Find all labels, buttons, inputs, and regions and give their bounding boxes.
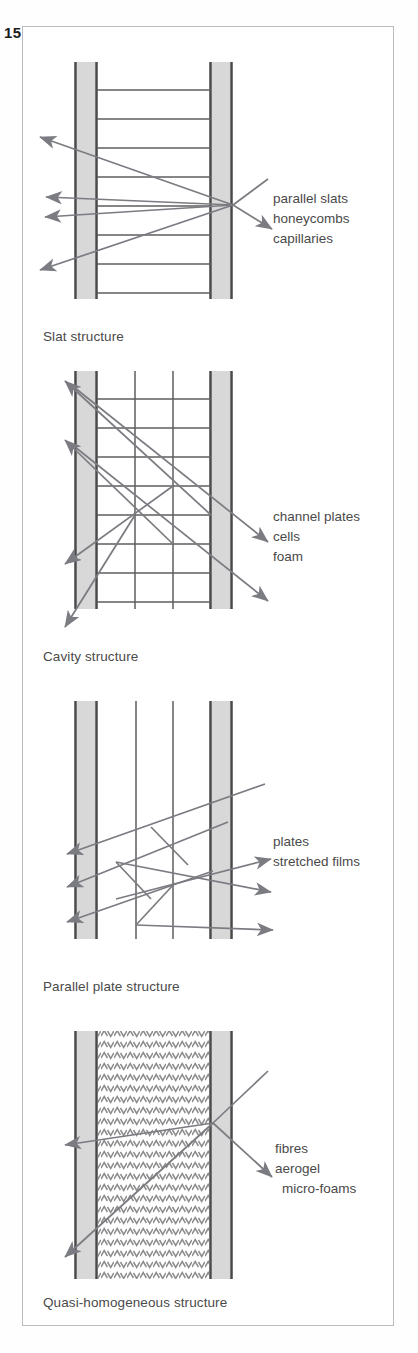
right-wall bbox=[209, 701, 233, 939]
callout-line: plates bbox=[273, 832, 360, 852]
page-number: 15 bbox=[4, 24, 21, 41]
caption-cavity-structure: Cavity structure bbox=[43, 649, 138, 664]
left-wall bbox=[74, 371, 98, 609]
left-wall bbox=[74, 1031, 98, 1279]
caption-quasi-homogeneous-structure: Quasi-homogeneous structure bbox=[43, 1295, 227, 1310]
internal-plates bbox=[136, 701, 173, 939]
callout-line: cells bbox=[273, 527, 360, 547]
callout-line: foam bbox=[273, 547, 360, 567]
left-wall bbox=[74, 62, 98, 299]
callout-line: micro-foams bbox=[275, 1179, 356, 1199]
callout-cavity-structure: channel plates cells foam bbox=[273, 507, 360, 567]
panel-cavity-structure: channel plates cells foam Cavity structu… bbox=[23, 357, 395, 687]
right-wall bbox=[209, 371, 233, 609]
callout-parallel-plate-structure: plates stretched films bbox=[273, 832, 360, 872]
panel-slat-structure: parallel slats honeycombs capillaries Sl… bbox=[23, 27, 395, 357]
callout-line: aerogel bbox=[275, 1159, 356, 1179]
ray-source-segment bbox=[233, 179, 268, 205]
callout-line: capillaries bbox=[273, 229, 350, 249]
left-wall bbox=[74, 701, 98, 939]
right-wall bbox=[209, 62, 233, 299]
right-wall bbox=[209, 1031, 233, 1279]
caption-slat-structure: Slat structure bbox=[43, 329, 124, 344]
callout-line: honeycombs bbox=[273, 209, 350, 229]
callout-slat-structure: parallel slats honeycombs capillaries bbox=[273, 189, 350, 249]
page: 15 bbox=[0, 0, 418, 1353]
callout-line: stretched films bbox=[273, 852, 360, 872]
callout-line: fibres bbox=[275, 1139, 356, 1159]
panel-parallel-plate-structure: plates stretched films Parallel plate st… bbox=[23, 687, 395, 1017]
callout-line: parallel slats bbox=[273, 189, 350, 209]
callout-quasi-homogeneous-structure: fibres aerogel micro-foams bbox=[275, 1139, 356, 1199]
callout-line: channel plates bbox=[273, 507, 360, 527]
panel-quasi-homogeneous-structure: fibres aerogel micro-foams Quasi-homogen… bbox=[23, 1017, 395, 1327]
figure-frame: parallel slats honeycombs capillaries Sl… bbox=[22, 26, 394, 1326]
quasi-homogeneous-core bbox=[98, 1031, 209, 1279]
caption-parallel-plate-structure: Parallel plate structure bbox=[43, 979, 180, 994]
